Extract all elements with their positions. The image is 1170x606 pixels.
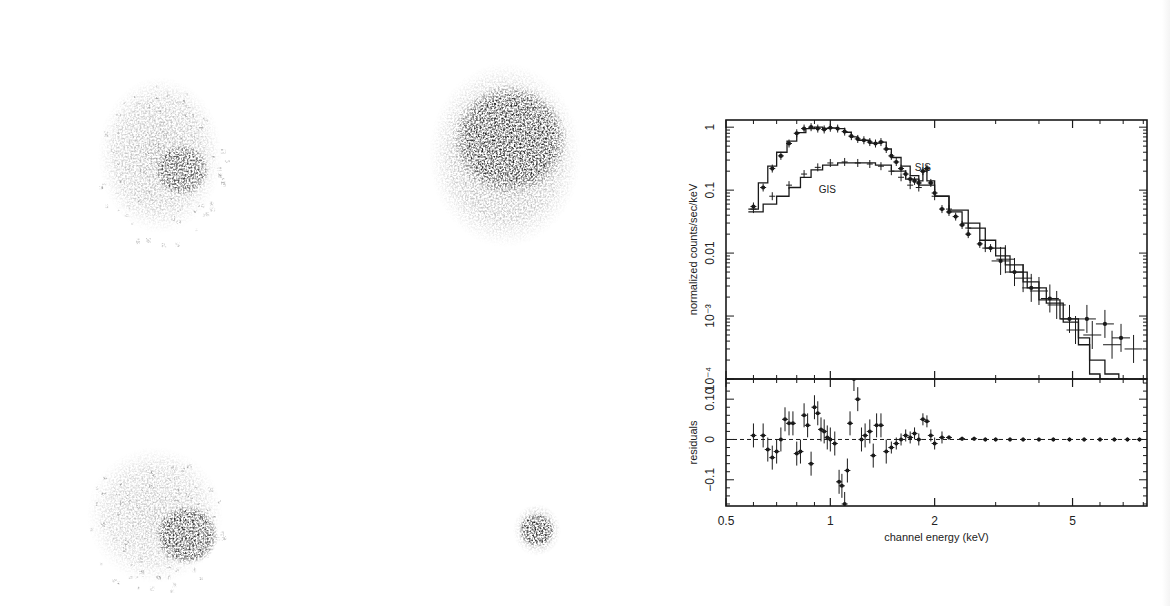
series-annotation-sis: SIS	[915, 162, 931, 173]
page-edge-shadow	[1162, 0, 1170, 606]
xray-image-bottom-left	[87, 447, 226, 593]
xray-image-bottom-right	[513, 504, 561, 556]
spectrum-chart: 0.5125channel energy (keV)10.10.0110⁻³10…	[680, 100, 1170, 560]
y-tick-label-top: 0.01	[703, 241, 717, 265]
spectrum-plot-svg: 0.5125channel energy (keV)10.10.0110⁻³10…	[680, 100, 1170, 560]
y-tick-label-bottom: −0.1	[703, 468, 717, 492]
y-tick-label-top: 10⁻³	[703, 304, 717, 327]
x-tick-label: 0.5	[718, 514, 735, 528]
top-panel-frame	[726, 120, 1147, 379]
model-step-line	[748, 163, 1127, 379]
x-tick-label: 1	[827, 514, 834, 528]
series-annotation-gis: GIS	[819, 184, 837, 195]
y-tick-label-bottom: 0	[703, 436, 717, 443]
y-axis-label-top: normalized counts/sec/keV	[687, 183, 699, 315]
y-tick-label-bottom: 0.10	[703, 387, 717, 411]
xray-image-top-right	[429, 63, 581, 247]
xray-images-layer	[0, 0, 680, 606]
x-tick-label: 5	[1069, 514, 1076, 528]
bottom-panel-frame	[726, 379, 1147, 506]
y-axis-label-bottom: residuals	[687, 420, 699, 465]
x-tick-label: 2	[931, 514, 938, 528]
spectrum-series-group	[748, 123, 1142, 379]
x-axis-label: channel energy (keV)	[884, 531, 989, 543]
xray-image-top-left	[98, 77, 230, 247]
y-tick-label-top: 1	[703, 124, 717, 131]
y-tick-label-top: 0.1	[703, 181, 717, 198]
residual-series-group	[750, 367, 1142, 516]
